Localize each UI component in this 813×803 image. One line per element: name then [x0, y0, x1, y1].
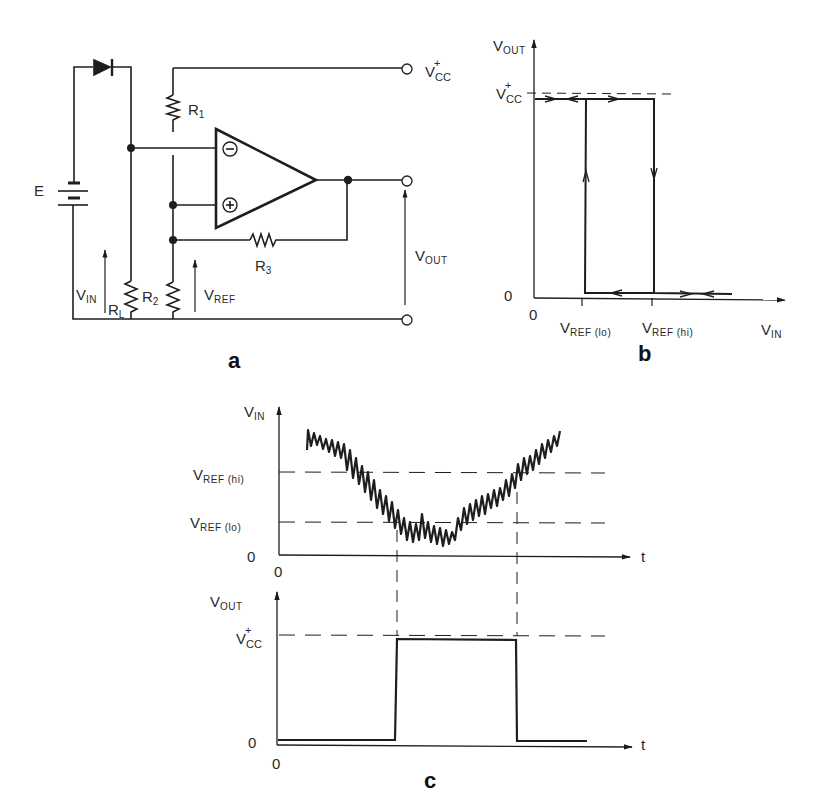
x-axis: [279, 555, 630, 557]
x-axis: [277, 745, 632, 747]
vin-label: VIN: [76, 287, 97, 305]
resistor-r1-icon: [167, 95, 179, 132]
battery-icon: [58, 183, 88, 205]
rl-label: RL: [108, 302, 125, 320]
junction-dot: [128, 145, 134, 151]
chart-c-bottom-y-label: VOUT: [210, 594, 243, 612]
chart-b-y-label: VOUT: [493, 38, 526, 56]
chart-b-vcc-label: V+CC: [496, 86, 522, 101]
chart-c-top-x-label: t: [641, 549, 645, 564]
resistor-r2-icon: [167, 282, 179, 319]
terminal-gnd: [402, 315, 412, 325]
chart-c-vcc-label: V+CC: [236, 631, 262, 646]
vcc-label: V+CC: [425, 64, 451, 79]
chart-c-top-x-zero: 0: [274, 564, 282, 579]
r2-label: R2: [142, 289, 159, 307]
circuit-diagram: [58, 59, 412, 325]
resistor-rl-icon: [125, 281, 137, 319]
x-axis: [534, 298, 785, 300]
figure-canvas: [0, 0, 813, 803]
chart-c-bottom-y-zero: 0: [248, 735, 256, 750]
chart-b-tick-lo: VREF (lo): [560, 320, 611, 338]
terminal-out: [402, 176, 412, 186]
panel-label-a: a: [228, 350, 240, 372]
chart-c-bottom-x-zero: 0: [272, 756, 280, 771]
terminal-vcc: [402, 64, 412, 74]
battery-label: E: [34, 183, 44, 198]
hysteresis-loop: [535, 99, 732, 294]
r1-label: R1: [188, 102, 205, 120]
junction-dot: [170, 202, 176, 208]
chart-c-bottom-x-label: t: [641, 737, 645, 752]
vref-lo-dashed-line: [279, 522, 605, 523]
chart-c-ref-hi-label: VREF (hi): [193, 467, 244, 485]
chart-c-top: [279, 407, 630, 636]
vcc-dashed-line: [527, 93, 672, 94]
junction-dot: [345, 177, 352, 184]
junction-dot: [170, 237, 176, 243]
chart-b-x-label: VIN: [761, 322, 782, 340]
chart-c-top-y-label: VIN: [244, 404, 265, 422]
r3-label: R3: [255, 258, 272, 276]
vout-pulse: [278, 639, 587, 741]
chart-c-bottom: [277, 592, 632, 747]
chart-c-ref-lo-label: VREF (lo): [190, 515, 241, 533]
panel-label-c: c: [424, 770, 436, 792]
vin-noisy-waveform: [307, 430, 560, 546]
chart-b-y-zero: 0: [504, 288, 512, 303]
chart-b: [527, 40, 785, 306]
vcc-dashed-line: [279, 635, 605, 636]
vref-hi-dashed-line: [279, 472, 605, 473]
diode-icon: [94, 59, 112, 76]
vout-label: VOUT: [415, 248, 448, 266]
chart-b-x-zero: 0: [529, 307, 537, 322]
chart-c-top-y-zero: 0: [247, 549, 255, 564]
chart-b-tick-hi: VREF (hi): [642, 320, 693, 338]
wire-diode-to-rl: [112, 67, 131, 281]
wire-left: [74, 67, 93, 183]
panel-label-b: b: [638, 343, 651, 365]
vref-label: VREF: [204, 287, 236, 305]
opamp-icon: [216, 129, 316, 228]
